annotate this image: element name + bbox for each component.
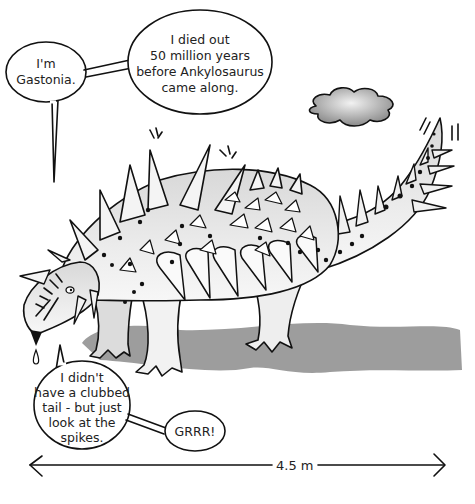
bubble-tail-line-4: look at the — [48, 415, 115, 430]
length-measurement: 4.5 m — [30, 454, 445, 476]
bubble-name-line-1: I'm — [36, 56, 55, 71]
bubble-connector — [84, 60, 132, 77]
bubble-connector-growl — [126, 414, 166, 434]
bubble-fact-line-3: before Ankylosaurus — [136, 64, 264, 79]
drool-drop — [33, 350, 38, 364]
bubble-fact-line-2: 50 million years — [150, 48, 250, 63]
illustration-canvas: I'm Gastonia. I died out 50 million year… — [0, 0, 475, 504]
bubble-tail-line-3: tail - but just — [42, 400, 122, 415]
arrowhead-left-icon — [30, 456, 42, 476]
bubble-tail-line-2: have a clubbed — [34, 385, 130, 400]
bubble-fact-line-1: I died out — [170, 32, 229, 47]
speech-bubble-fact: I died out 50 million years before Ankyl… — [128, 10, 272, 114]
illustration: I'm Gastonia. I died out 50 million year… — [0, 0, 475, 504]
cloud — [309, 88, 393, 126]
bubble-fact-line-4: came along. — [162, 80, 239, 95]
spike-motion-lines — [150, 128, 236, 158]
speech-bubble-growl: GRRR! — [165, 411, 225, 451]
bubble-tail-line-5: spikes. — [61, 430, 104, 445]
speech-bubble-name: I'm Gastonia. — [6, 42, 86, 182]
beak — [30, 330, 42, 346]
bubble-tail-line-1: I didn't — [60, 370, 103, 385]
bubble-growl-text: GRRR! — [175, 424, 216, 439]
eye-pupil — [70, 289, 72, 291]
measure-label: 4.5 m — [276, 458, 313, 473]
bubble-name-line-2: Gastonia. — [16, 72, 75, 87]
